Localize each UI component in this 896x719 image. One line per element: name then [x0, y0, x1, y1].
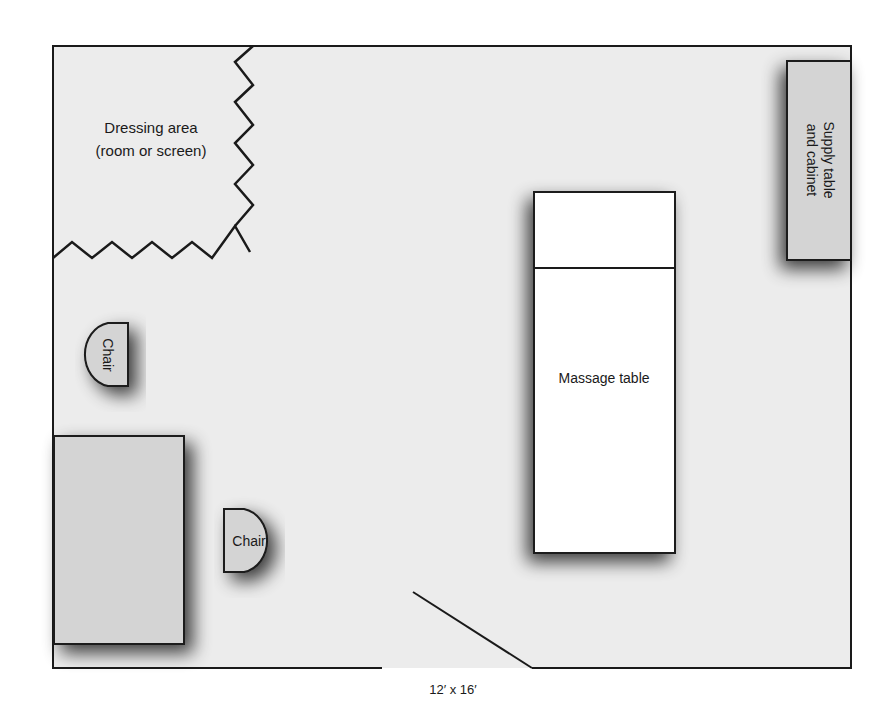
- dressing-area-sublabel: (room or screen): [96, 142, 207, 159]
- floor-plan: Dressing area (room or screen) Supply ta…: [0, 0, 896, 719]
- chair-2-label: Chair: [232, 533, 266, 549]
- dressing-area-label: Dressing area: [104, 119, 198, 136]
- dimensions-label: 12′ x 16′: [429, 682, 477, 697]
- desk: [54, 436, 184, 644]
- chair-1-label: Chair: [100, 338, 116, 372]
- supply-cabinet-sublabel: and cabinet: [804, 124, 820, 197]
- supply-cabinet-label: Supply table: [821, 121, 837, 198]
- massage-table-label: Massage table: [558, 370, 649, 386]
